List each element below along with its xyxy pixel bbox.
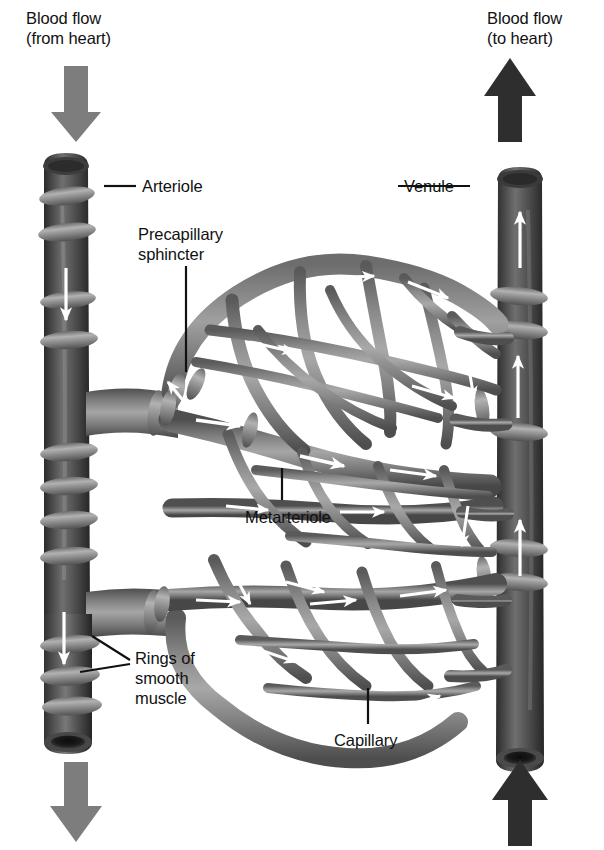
leader-rings-upper [92, 636, 130, 660]
label-blood-flow-from-heart: Blood flow (from heart) [26, 8, 111, 48]
label-rings-of-smooth-muscle: Rings of smooth muscle [135, 648, 195, 708]
precapillary-sphincter-rings [152, 366, 261, 623]
inflow-arrow-top-left [51, 66, 101, 142]
label-metarteriole: Metarteriole [245, 507, 331, 527]
capillary-bed-figure: Blood flow (from heart) Blood flow (to h… [0, 0, 604, 850]
label-capillary: Capillary [334, 730, 397, 750]
inflow-arrow-bottom-right [492, 760, 548, 846]
label-blood-flow-to-heart: Blood flow (to heart) [487, 8, 562, 48]
capillary-bed-illustration [0, 0, 604, 850]
outflow-arrow-top-right [484, 58, 536, 142]
label-precapillary-sphincter: Precapillary sphincter [138, 224, 223, 264]
capillary-network [168, 264, 508, 758]
label-arteriole: Arteriole [142, 176, 203, 196]
outflow-arrow-bottom-left [50, 762, 102, 842]
label-venule: Venule [404, 176, 454, 196]
